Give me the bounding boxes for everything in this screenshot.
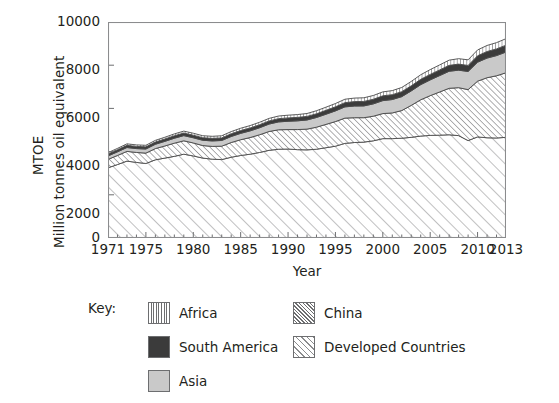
dense-diagonal-hatch-swatch-icon: [293, 302, 315, 324]
legend-column-1: Africa South America Asia: [148, 296, 278, 398]
x-axis-tick-labels: 1971 1975 1980 1985 1990 1995 2000 2005 …: [0, 243, 559, 263]
legend-label-africa: Africa: [179, 305, 218, 321]
chart-figure: MTOE Million tonnes oil equivalent 10000…: [0, 0, 559, 403]
plot-area: [108, 22, 506, 238]
area-series-group: [108, 39, 506, 238]
solid-gray-swatch-icon: [148, 370, 170, 392]
x-tick-label-1980: 1980: [176, 243, 210, 257]
x-axis-title: Year: [108, 263, 506, 279]
legend-label-asia: Asia: [179, 373, 207, 389]
x-tick-label-1995: 1995: [318, 243, 352, 257]
legend-item-south-america[interactable]: South America: [148, 330, 278, 364]
stacked-area-svg: [108, 22, 506, 238]
x-tick-label-1990: 1990: [271, 243, 305, 257]
x-tick-label-2000: 2000: [366, 243, 400, 257]
legend-item-africa[interactable]: Africa: [148, 296, 278, 330]
legend: Key: Africa South America Asia China: [0, 296, 559, 396]
y-tick-label-6000: 6000: [46, 111, 100, 125]
x-tick-label-1975: 1975: [129, 243, 163, 257]
y-tick-label-4000: 4000: [46, 159, 100, 173]
sparse-diagonal-hatch-swatch-icon: [293, 336, 315, 358]
legend-label-china: China: [324, 305, 363, 321]
vertical-hatch-swatch-icon: [148, 302, 170, 324]
legend-item-china[interactable]: China: [293, 296, 465, 330]
y-axis-tick-labels: 10000 8000 6000 4000 2000 0: [44, 0, 100, 250]
y-tick-label-10000: 10000: [46, 15, 100, 29]
y-tick-label-8000: 8000: [46, 63, 100, 77]
x-tick-label-2013: 2013: [489, 243, 523, 257]
x-tick-label-1985: 1985: [223, 243, 257, 257]
y-tick-label-2000: 2000: [46, 207, 100, 221]
legend-title: Key:: [88, 300, 116, 316]
legend-column-2: China Developed Countries: [293, 296, 465, 364]
x-tick-label-2005: 2005: [413, 243, 447, 257]
solid-dark-swatch-icon: [148, 336, 170, 358]
legend-item-asia[interactable]: Asia: [148, 364, 278, 398]
legend-label-south-america: South America: [179, 339, 278, 355]
legend-item-developed[interactable]: Developed Countries: [293, 330, 465, 364]
x-tick-label-1971: 1971: [91, 243, 125, 257]
legend-label-developed-countries: Developed Countries: [324, 339, 465, 355]
